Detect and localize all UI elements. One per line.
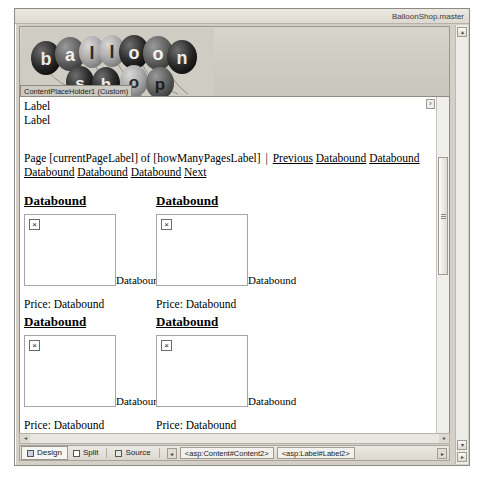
pager-page-link-1[interactable]: Databound [316, 152, 366, 164]
designer-bottom-tabbar: Design Split Source ◂ <asp:Content#Conte… [19, 445, 450, 461]
product-row-titles: Databound Databound [24, 191, 424, 209]
tab-source-label: Source [125, 446, 150, 460]
product-price-cell: Price: Databound [156, 294, 288, 312]
content-placeholder-tab[interactable]: ContentPlaceHolder1 (Custom) [20, 85, 132, 96]
product-title-link[interactable]: Databound [24, 313, 86, 330]
product-grid: Databound Databound × Databoun [24, 191, 424, 434]
design-view-icon [27, 450, 34, 457]
pager-page-link-2[interactable]: Databound [369, 152, 419, 164]
product-cell: Databound [24, 191, 156, 209]
pager-page-link-5[interactable]: Databound [131, 166, 181, 178]
product-image-cell: × Databound [24, 335, 156, 407]
breadcrumb-content-tag[interactable]: <asp:Content#Content2> [180, 447, 274, 459]
broken-image-icon: × [161, 340, 172, 351]
split-view-icon [73, 450, 80, 457]
window-scroll-up-icon[interactable]: ▴ [457, 27, 467, 37]
svg-text:n: n [177, 48, 188, 68]
tab-split-label: Split [83, 446, 99, 460]
product-image-caption: Databound [248, 274, 296, 286]
product-image-cell: × Databound [156, 335, 288, 407]
tab-design[interactable]: Design [21, 446, 68, 460]
broken-image-icon: × [29, 340, 40, 351]
pager-page-link-3[interactable]: Databound [24, 166, 74, 178]
product-row: Databound Databound × Databoun [24, 191, 424, 312]
product-row-images: × Databound × Databound [24, 214, 424, 286]
product-price: Price: Databound [24, 419, 104, 431]
design-content-inner: Label Label Page [currentPageLabel] of [… [20, 97, 437, 434]
content-scrollbar-thumb[interactable] [438, 157, 448, 275]
product-image-caption: Databound [248, 395, 296, 407]
svg-text:o: o [153, 44, 164, 64]
master-page-filename: BalloonShop.master [392, 12, 464, 21]
breadcrumb-scroll-right-icon[interactable]: ▸ [437, 448, 447, 459]
scroll-left-arrow-icon[interactable]: ◂ [20, 434, 30, 443]
svg-text:a: a [65, 45, 76, 65]
svg-text:l: l [89, 43, 94, 63]
window-vertical-scrollbar[interactable]: ▴ ▾ ▸ [455, 25, 468, 464]
product-price-cell: Price: Databound [24, 294, 156, 312]
pager-separator: | [264, 152, 270, 164]
svg-text:p: p [155, 75, 165, 94]
tabbar-divider [106, 448, 107, 458]
product-title-link[interactable]: Databound [24, 192, 86, 209]
product-row-images: × Databound × Databound [24, 335, 424, 407]
master-page-filename-strip: BalloonShop.master [15, 9, 469, 24]
label-control-2[interactable]: Label [24, 113, 437, 127]
product-title-link[interactable]: Databound [156, 192, 218, 209]
pager-next-link[interactable]: Next [184, 166, 206, 178]
product-cell: Databound [156, 191, 288, 209]
product-image-cell: × Databound [24, 214, 156, 286]
product-image-placeholder[interactable]: × [24, 214, 116, 286]
tab-split[interactable]: Split [68, 446, 104, 460]
pager-page-info: Page [currentPageLabel] of [howManyPages… [24, 152, 261, 164]
product-row: Databound Databound × Databoun [24, 312, 424, 433]
tab-design-label: Design [37, 446, 62, 460]
visual-studio-designer-window: BalloonShop.master [14, 8, 470, 466]
svg-text:l: l [109, 42, 114, 62]
svg-text:b: b [41, 49, 52, 69]
breadcrumb-scroll-left-icon[interactable]: ◂ [167, 448, 177, 459]
source-view-icon [115, 450, 122, 457]
product-row-prices: Price: Databound Price: Databound [24, 415, 424, 433]
breadcrumb-label-tag[interactable]: <asp:Label#Label2> [277, 447, 355, 459]
product-image-placeholder[interactable]: × [156, 214, 248, 286]
design-content-region[interactable]: › Label Label Page [currentPageLabel] of… [19, 96, 450, 435]
product-price-cell: Price: Databound [24, 415, 156, 433]
product-price: Price: Databound [156, 419, 236, 431]
pagination-bar: Page [currentPageLabel] of [howManyPages… [24, 151, 424, 179]
tabbar-divider [159, 448, 160, 458]
screenshot-root: BalloonShop.master [0, 0, 483, 478]
product-image-cell: × Databound [156, 214, 288, 286]
broken-image-icon: × [29, 219, 40, 230]
tab-source[interactable]: Source [110, 446, 155, 460]
label-control-1[interactable]: Label [24, 99, 437, 113]
product-price-cell: Price: Databound [156, 415, 288, 433]
content-vertical-scrollbar[interactable] [436, 97, 449, 434]
content-placeholder-tab-label: ContentPlaceHolder1 (Custom) [24, 87, 128, 96]
broken-image-icon: × [161, 219, 172, 230]
scroll-right-arrow-icon[interactable]: ▸ [439, 434, 449, 443]
product-price: Price: Databound [24, 298, 104, 310]
product-title-link[interactable]: Databound [156, 313, 218, 330]
product-cell: Databound [24, 312, 156, 330]
horizontal-scrollbar[interactable]: ◂ ▸ [19, 433, 450, 444]
content-spacer [24, 127, 437, 151]
content-region-handle[interactable]: › [426, 99, 435, 109]
scrollbar-grip [441, 214, 446, 219]
product-price: Price: Databound [156, 298, 236, 310]
pager-previous-link[interactable]: Previous [273, 152, 313, 164]
product-row-prices: Price: Databound Price: Databound [24, 294, 424, 312]
product-image-placeholder[interactable]: × [156, 335, 248, 407]
pager-page-link-4[interactable]: Databound [77, 166, 127, 178]
product-image-placeholder[interactable]: × [24, 335, 116, 407]
product-cell: Databound [156, 312, 288, 330]
product-row-titles: Databound Databound [24, 312, 424, 330]
window-scroll-right-icon[interactable]: ▸ [457, 452, 467, 462]
window-scroll-down-icon[interactable]: ▾ [457, 440, 467, 450]
svg-text:o: o [129, 43, 140, 63]
